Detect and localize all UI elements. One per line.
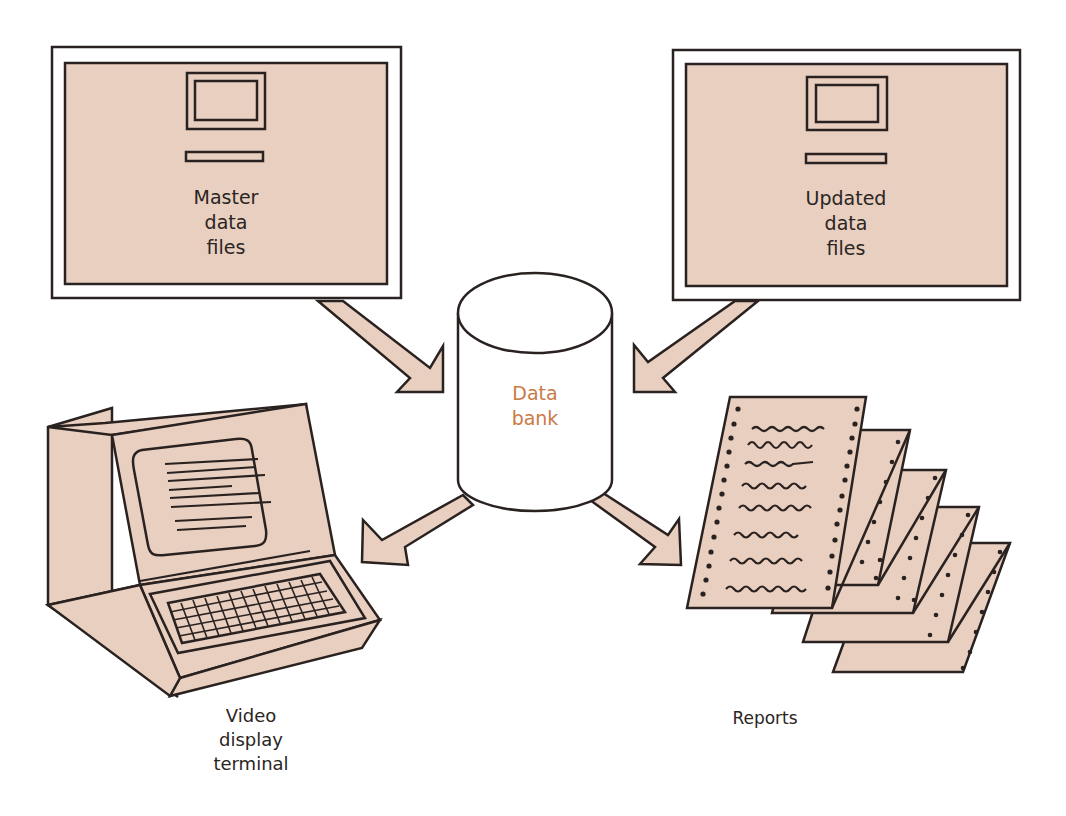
- label-line: display: [196, 728, 306, 752]
- arrow-updated-to-databank: [634, 301, 758, 392]
- master-files-label: Master data files: [176, 185, 276, 260]
- label-line: Updated: [791, 186, 901, 211]
- updated-files-panel: [673, 50, 1020, 300]
- printout-stack-icon: [687, 397, 1010, 672]
- label-line: files: [176, 235, 276, 260]
- reports-label: Reports: [715, 706, 815, 731]
- terminal-label: Video display terminal: [196, 704, 306, 776]
- label-line: files: [791, 236, 901, 261]
- label-line: bank: [495, 406, 575, 431]
- label-line: Data: [495, 381, 575, 406]
- label-line: data: [176, 210, 276, 235]
- arrow-databank-to-reports: [590, 491, 681, 565]
- label-line: Reports: [715, 706, 815, 731]
- updated-files-label: Updated data files: [791, 186, 901, 261]
- databank-label: Data bank: [495, 381, 575, 431]
- label-line: Master: [176, 185, 276, 210]
- label-line: terminal: [196, 752, 306, 776]
- video-terminal-icon: [48, 404, 380, 697]
- label-line: Video: [196, 704, 306, 728]
- arrow-databank-to-terminal: [362, 495, 473, 565]
- arrow-master-to-databank: [318, 301, 443, 392]
- label-line: data: [791, 211, 901, 236]
- master-files-panel: [52, 47, 401, 298]
